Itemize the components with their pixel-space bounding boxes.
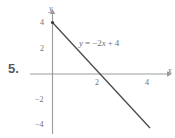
equation-lhs: y bbox=[79, 38, 83, 48]
equation-variable: x bbox=[102, 38, 106, 48]
equation-plus: + bbox=[108, 38, 113, 48]
equation-annotation: y=−2x+4 bbox=[79, 38, 119, 48]
equation-intercept: 4 bbox=[115, 38, 120, 48]
equation-equals: = bbox=[85, 38, 90, 48]
x-tick-label-4: 4 bbox=[145, 78, 149, 87]
y-tick-label-minus-2: −2 bbox=[35, 95, 44, 104]
y-tick-label-4: 4 bbox=[40, 18, 44, 27]
y-tick-label-2: 2 bbox=[40, 44, 44, 53]
graph-figure: 5. 4 2 −2 −4 2 4 y x y=−2x+4 bbox=[0, 0, 175, 138]
y-tick-label-minus-4: −4 bbox=[35, 120, 44, 129]
y-intercept-point bbox=[51, 21, 54, 24]
y-axis-name-label: y bbox=[49, 4, 53, 13]
x-tick-label-2: 2 bbox=[95, 78, 99, 87]
x-axis-name-label: x bbox=[168, 66, 172, 75]
coordinate-plane-svg bbox=[0, 0, 175, 138]
